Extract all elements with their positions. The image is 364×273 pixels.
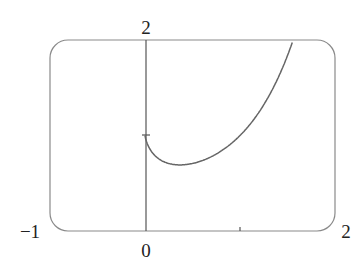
x-tick-label-right: 2 (341, 221, 351, 242)
curve-x-pow-x (145, 43, 292, 165)
x-tick-label-origin: 0 (141, 240, 151, 261)
y-tick-label-top: 2 (141, 17, 151, 38)
plot-area: 2 −1 0 2 (0, 0, 364, 273)
plot-frame (50, 40, 335, 231)
x-tick-label-left: −1 (20, 221, 40, 242)
